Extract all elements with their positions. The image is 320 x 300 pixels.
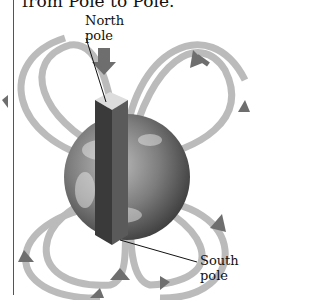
south-label-line1: South [200,253,239,268]
south-label-line2: pole [200,268,239,283]
north-label-line2: pole [85,28,124,43]
south-pole-label: South pole [200,253,239,283]
bar-magnet [95,92,128,245]
north-pole-label: North pole [85,13,124,43]
north-label-line1: North [85,13,124,28]
